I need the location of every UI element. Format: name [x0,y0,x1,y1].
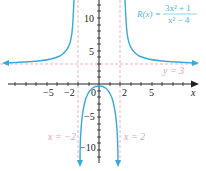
curve-branch-left [5,0,74,63]
rational-function-graph: −5 −2 0 2 5 x 10 5 −5 −10 x = −2 x = 2 y… [0,0,206,171]
y-tick-label: −10 [80,142,96,153]
asymptote-label-x-neg2: x = −2 [47,131,76,142]
arrow-right-icon [192,60,199,66]
function-label: R(x) = 3x² + 1 x² − 4 [136,3,197,25]
asymptote-label-y-3: y = 3 [162,65,184,76]
x-tick-label: −2 [64,87,75,98]
y-tick-label: 10 [84,13,94,24]
arrow-down-right-icon [115,160,121,167]
y-tick-label: 5 [89,46,94,57]
svg-text:R(x) =: R(x) = [136,9,161,19]
svg-text:3x² + 1: 3x² + 1 [165,3,191,13]
x-axis-label: x [190,87,196,98]
asymptote-label-x-2: x = 2 [123,131,145,142]
x-tick-label: 5 [149,87,154,98]
x-tick-label: 2 [122,87,127,98]
y-tick-label: −5 [84,111,95,122]
arrow-left-icon [2,60,9,66]
arrow-down-left-icon [77,160,83,167]
svg-text:x² − 4: x² − 4 [168,15,190,25]
x-tick-label: −5 [43,87,54,98]
